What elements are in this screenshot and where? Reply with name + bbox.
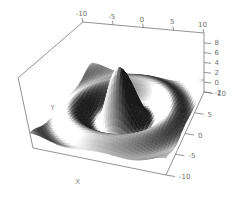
x-axis-tick-label: 10	[198, 21, 207, 29]
z-axis-tick-label: 4	[215, 59, 220, 67]
y-axis-tick-label: -5	[189, 152, 196, 160]
x-axis: -10-50510	[76, 10, 207, 33]
x-axis-tick-label: 5	[170, 18, 174, 26]
x-axis-tick-label: -5	[108, 13, 115, 21]
surface-plot-figure: -10-5051086420-21050-5-10 X Y	[0, 0, 239, 202]
x-axis-tick-label: 0	[140, 16, 144, 24]
y-axis-tick-label: 10	[217, 90, 226, 98]
z-axis-tick-label: 2	[215, 69, 219, 77]
x-axis-tick-label: -10	[76, 10, 87, 18]
z-axis: 86420-2	[204, 39, 221, 96]
z-axis-tick-label: 8	[215, 39, 219, 47]
z-axis-tick-label: 6	[215, 49, 220, 57]
y-axis-tick-label: 0	[198, 132, 202, 140]
surface-plot-canvas: -10-5051086420-21050-5-10	[0, 0, 239, 202]
x-axis-title: X	[75, 178, 80, 186]
z-axis-tick-label: 0	[215, 79, 219, 87]
surface-mesh	[30, 63, 204, 160]
y-axis-tick-label: -10	[179, 173, 190, 181]
y-axis-title: Y	[51, 104, 56, 112]
y-axis-tick-label: 5	[208, 111, 212, 119]
